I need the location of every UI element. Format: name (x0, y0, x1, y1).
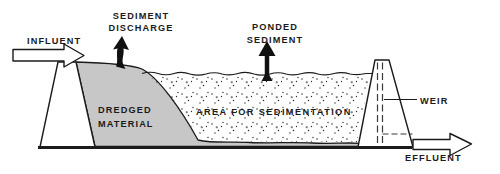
effluent-label: EFFLUENT (405, 153, 462, 163)
sediment-discharge-label-line2: DISCHARGE (108, 23, 173, 33)
ponded-sediment-label-line1: PONDED (252, 22, 298, 32)
sediment-discharge-label-line1: SEDIMENT (113, 11, 169, 21)
ponded-sediment-label-line2: SEDIMENT (247, 35, 303, 45)
diagram-svg: INFLUENT SEDIMENT DISCHARGE PONDED SEDIM… (0, 0, 500, 174)
dredged-material-label-line1: DREDGED (98, 105, 152, 115)
dredged-material-label-line2: MATERIAL (98, 119, 154, 129)
containment-basin-diagram: INFLUENT SEDIMENT DISCHARGE PONDED SEDIM… (0, 0, 500, 174)
influent-label: INFLUENT (27, 36, 81, 46)
weir-label: WEIR (420, 96, 448, 106)
area-for-sedimentation-label: AREA FOR SEDIMENTATION (196, 107, 352, 117)
